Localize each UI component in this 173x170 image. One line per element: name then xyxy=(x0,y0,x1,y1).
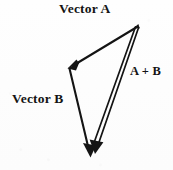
resultant-vector-arrow xyxy=(90,24,140,154)
vector-b-shaft xyxy=(70,69,89,148)
vector-diagram-canvas xyxy=(0,0,173,170)
vector-b-label: Vector B xyxy=(12,92,63,106)
resultant-inner-rail xyxy=(94,27,136,144)
resultant-outer-rail xyxy=(98,28,138,145)
vector-addition-figure: Vector A Vector B A + B xyxy=(0,0,173,170)
resultant-label: A + B xyxy=(130,65,161,78)
vector-a-label: Vector A xyxy=(59,2,110,16)
